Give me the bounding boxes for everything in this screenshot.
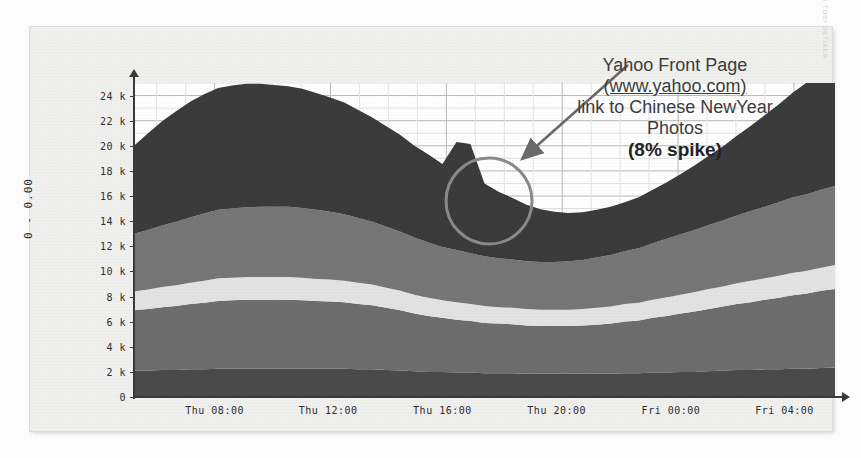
- y-tick-mark: [130, 297, 134, 298]
- y-tick-mark: [130, 372, 134, 373]
- y-tick-label: 22 k: [74, 115, 126, 126]
- y-tick-mark: [130, 347, 134, 348]
- y-tick-label: 2 k: [74, 366, 126, 377]
- y-tick-label: 8 k: [74, 291, 126, 302]
- y-tick-mark: [130, 246, 134, 247]
- y-tick-label: 12 k: [74, 241, 126, 252]
- y-tick-mark: [130, 271, 134, 272]
- scanned-page: 02 k4 k6 k8 k10 k12 k14 k16 k18 k20 k22 …: [0, 0, 861, 458]
- x-tick-label: Fri 04:00: [755, 405, 814, 416]
- y-tick-mark: [130, 171, 134, 172]
- y-tick-label: 14 k: [74, 216, 126, 227]
- y-tick-mark: [130, 146, 134, 147]
- y-tick-label: 0: [74, 392, 126, 403]
- y-tick-label: 10 k: [74, 266, 126, 277]
- y-axis-arrow-icon: [129, 69, 139, 77]
- y-tick-label: 6 k: [74, 316, 126, 327]
- annotation-line-url: (www.yahoo.com): [510, 76, 840, 97]
- y-tick-label: 18 k: [74, 165, 126, 176]
- chart-panel: 02 k4 k6 k8 k10 k12 k14 k16 k18 k20 k22 …: [30, 27, 832, 431]
- y-tick-label: 20 k: [74, 140, 126, 151]
- y-tick-mark: [130, 96, 134, 97]
- y-tick-mark: [130, 221, 134, 222]
- annotation-spike-label: (8% spike): [510, 139, 840, 161]
- y-tick-mark: [130, 196, 134, 197]
- x-tick-label: Thu 12:00: [299, 405, 358, 416]
- y-tick-label: 4 k: [74, 341, 126, 352]
- x-tick-label: Thu 08:00: [185, 405, 244, 416]
- x-tick-label: Thu 16:00: [413, 405, 472, 416]
- annotation-line-3: link to Chinese NewYear: [510, 97, 840, 118]
- x-tick-label: Fri 00:00: [642, 405, 701, 416]
- y-tick-label: 16 k: [74, 191, 126, 202]
- y-axis-label: 0 - 0.00: [22, 178, 35, 239]
- y-tick-mark: [130, 322, 134, 323]
- y-tick-mark: [130, 121, 134, 122]
- y-tick-label: 24 k: [74, 90, 126, 101]
- x-tick-label: Thu 20:00: [527, 405, 586, 416]
- annotation-line-1: Yahoo Front Page: [510, 55, 840, 76]
- rrdtool-watermark: RRDTOOL / TOBI OETIKER: [822, 0, 828, 59]
- y-axis-line: [133, 75, 135, 399]
- annotation-line-4: Photos: [510, 118, 840, 139]
- annotation-text: Yahoo Front Page (www.yahoo.com) link to…: [510, 55, 840, 161]
- y-tick-mark: [130, 397, 134, 398]
- x-axis-line: [134, 396, 846, 398]
- x-axis-arrow-icon: [842, 392, 850, 402]
